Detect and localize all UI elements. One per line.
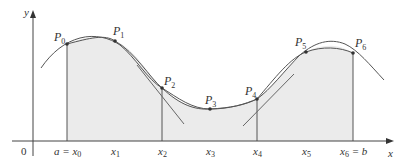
y-axis-arrow-icon: [30, 10, 36, 18]
y-axis-label: y: [23, 6, 29, 18]
tick-x3: x3: [205, 145, 215, 159]
tick-x1: x1: [110, 145, 120, 159]
tick-x0: a = x0: [54, 145, 81, 159]
tick-x6: x6 = b: [339, 145, 368, 159]
diagram-canvas: P0 P1 P2 P3 P4 P5 P6 y x 0 a = x0 x1 x2 …: [0, 0, 406, 164]
label-p2: P2: [163, 74, 175, 90]
label-p4: P4: [244, 84, 256, 100]
origin-label: 0: [21, 145, 27, 157]
x-axis-label: x: [387, 147, 393, 159]
label-p3: P3: [204, 93, 216, 109]
tick-labels: a = x0 x1 x2 x3 x4 x5 x6 = b: [54, 145, 368, 159]
label-p1: P1: [112, 24, 124, 40]
tick-x4: x4: [252, 145, 262, 159]
simpsons-rule-figure: P0 P1 P2 P3 P4 P5 P6 y x 0 a = x0 x1 x2 …: [0, 0, 406, 164]
label-p6: P6: [354, 36, 366, 52]
label-p0: P0: [53, 30, 65, 46]
shaded-area: [67, 38, 353, 141]
tick-x2: x2: [157, 145, 167, 159]
label-p5: P5: [294, 35, 306, 51]
x-axis-arrow-icon: [386, 138, 394, 144]
tick-x5: x5: [301, 145, 311, 159]
